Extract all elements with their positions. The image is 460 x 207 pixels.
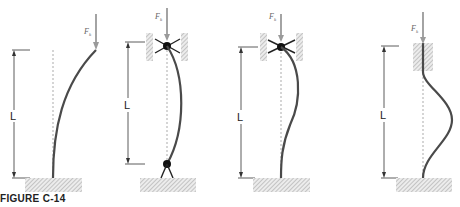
ground-support	[140, 178, 196, 192]
buckled-column	[167, 46, 181, 164]
length-label: L	[237, 111, 243, 123]
length-dimension: L	[380, 46, 399, 178]
length-dimension: L	[124, 42, 145, 164]
svg-text:k: k	[274, 17, 277, 22]
fixed-ground-support	[253, 178, 310, 192]
svg-text:k: k	[416, 29, 419, 34]
panel-pinned-pinned: L F k	[124, 8, 196, 192]
top-guide-right	[296, 33, 303, 61]
top-guide-left	[260, 33, 267, 61]
top-guide-left	[146, 33, 153, 61]
panel-fixed-fixed: L F k	[380, 12, 452, 192]
length-dimension: L	[237, 47, 258, 178]
top-guide-right	[181, 33, 188, 61]
svg-text:k: k	[160, 17, 163, 22]
panel-fixed-free: L F k	[10, 14, 99, 192]
length-dimension: L	[10, 50, 30, 178]
column-buckling-diagram: L F k L	[0, 0, 460, 207]
figure-caption: FIGURE C-14	[0, 193, 66, 204]
svg-text:k: k	[89, 32, 92, 37]
fixed-ground-support	[396, 178, 452, 192]
fixed-ground-support	[25, 178, 82, 192]
length-label: L	[124, 99, 130, 111]
buckled-column	[281, 47, 298, 178]
length-label: L	[10, 110, 16, 122]
panel-pinned-fixed: L F k	[237, 12, 310, 192]
length-label: L	[380, 109, 386, 121]
buckled-column	[53, 50, 96, 178]
